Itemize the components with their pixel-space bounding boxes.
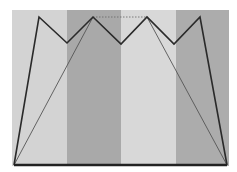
background-stripes (12, 10, 229, 166)
stripe-2 (67, 10, 121, 166)
stripe-1 (12, 10, 67, 166)
crown-trapezoid-diagram (0, 0, 237, 172)
diagram-stage (0, 0, 237, 172)
stripe-3 (121, 10, 176, 166)
